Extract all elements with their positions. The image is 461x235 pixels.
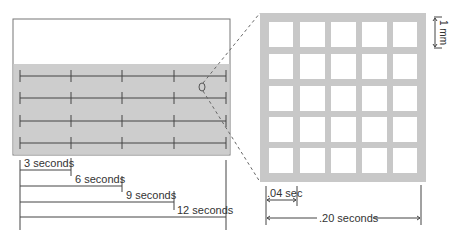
magnified-grid (260, 13, 426, 182)
ecg-strip-panel (13, 19, 230, 155)
ecg-paper-diagram: 3 seconds 6 seconds 9 seconds 12 seconds… (0, 0, 461, 235)
interval-label-12s: 12 seconds (177, 204, 234, 216)
mm-scale-label: 1 mm (438, 20, 449, 45)
large-interval-label: .20 seconds (319, 212, 379, 224)
interval-label-3s: 3 seconds (24, 157, 75, 169)
interval-label-6s: 6 seconds (75, 173, 126, 185)
small-interval-label: .04 sec (267, 187, 303, 199)
interval-label-9s: 9 seconds (126, 189, 177, 201)
grid-cells (269, 22, 417, 173)
